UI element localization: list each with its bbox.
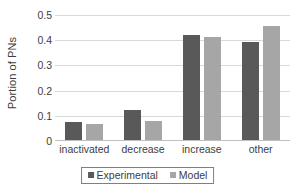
- bar[interactable]: [204, 37, 221, 140]
- y-axis-tick-label: 0.3: [37, 59, 52, 71]
- legend-label: Experimental: [97, 169, 158, 181]
- legend-swatch-icon: [170, 172, 176, 178]
- y-axis-tick-label: 0.5: [37, 9, 52, 21]
- bar[interactable]: [263, 26, 280, 140]
- bar[interactable]: [86, 124, 103, 140]
- bar-groups: [55, 15, 290, 140]
- legend-label: Model: [179, 169, 208, 181]
- y-axis-title-label: Portion of PNs: [6, 36, 18, 108]
- bar-group: [173, 15, 232, 140]
- bar[interactable]: [242, 42, 259, 140]
- x-axis-line: [55, 140, 290, 141]
- x-axis-tick-label: decrease: [114, 143, 173, 155]
- y-axis-tick-label: 0.2: [37, 85, 52, 97]
- legend-item[interactable]: Model: [170, 169, 208, 181]
- y-axis-tick-labels: 00.10.20.30.40.5: [22, 15, 52, 141]
- bar-group: [55, 15, 114, 140]
- x-axis-tick-label: inactivated: [55, 143, 114, 155]
- bar-chart: Portion of PNs 00.10.20.30.40.5 inactiva…: [0, 0, 295, 190]
- y-axis-title: Portion of PNs: [2, 0, 22, 145]
- bar[interactable]: [65, 122, 82, 140]
- bar-group: [231, 15, 290, 140]
- legend: ExperimentalModel: [81, 167, 215, 184]
- bar[interactable]: [145, 121, 162, 140]
- x-axis-tick-label: other: [231, 143, 290, 155]
- y-axis-tick-label: 0.4: [37, 34, 52, 46]
- legend-item[interactable]: Experimental: [88, 169, 158, 181]
- y-axis-tick-label: 0: [46, 135, 52, 147]
- legend-swatch-icon: [88, 172, 94, 178]
- x-axis-tick-label: increase: [173, 143, 232, 155]
- x-axis-tick-labels: inactivateddecreaseincreaseother: [55, 143, 290, 155]
- bar[interactable]: [183, 35, 200, 140]
- bar-group: [114, 15, 173, 140]
- y-axis-tick-label: 0.1: [37, 110, 52, 122]
- plot-area: [55, 15, 290, 141]
- bar[interactable]: [124, 110, 141, 140]
